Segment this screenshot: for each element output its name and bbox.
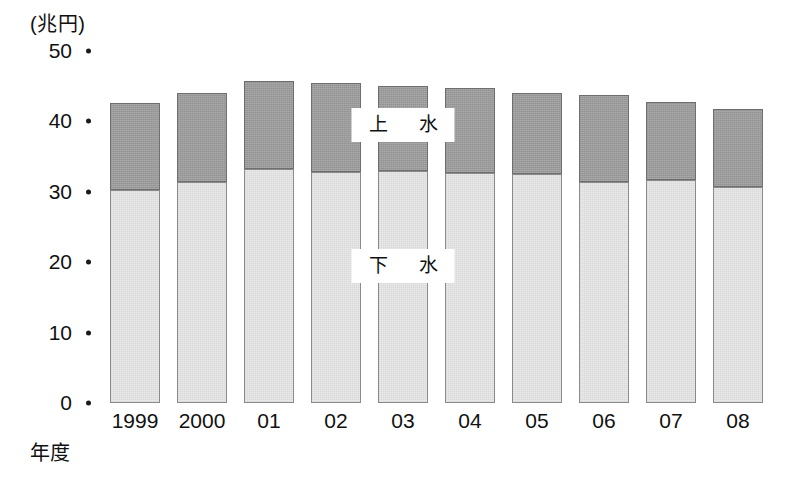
- bar-05: [512, 93, 562, 403]
- x-axis-label-01: 01: [257, 409, 280, 433]
- bar-08: [713, 109, 763, 403]
- bar-segment-sewerage: [311, 172, 361, 403]
- x-axis-caption: 年度: [30, 437, 70, 466]
- stacked-bar-chart: (兆円) 01020304050 上 水下 水 1999200001020304…: [0, 0, 786, 485]
- x-axis-label-08: 08: [726, 409, 749, 433]
- bar-segment-sewerage: [713, 187, 763, 403]
- bar-segment-upper-water: [713, 109, 763, 186]
- x-axis-label-05: 05: [525, 409, 548, 433]
- bar-segment-sewerage: [244, 169, 294, 403]
- bar-segment-sewerage: [646, 180, 696, 403]
- x-axis-label-02: 02: [324, 409, 347, 433]
- bar-06: [579, 95, 629, 403]
- bar-segment-sewerage: [378, 171, 428, 403]
- bar-segment-sewerage: [445, 173, 495, 403]
- bar-segment-sewerage: [579, 182, 629, 403]
- bar-01: [244, 81, 294, 403]
- bar-segment-upper-water: [646, 102, 696, 179]
- x-axis-label-1999: 1999: [112, 409, 159, 433]
- bar-segment-upper-water: [177, 93, 227, 182]
- bar-2000: [177, 93, 227, 403]
- bar-07: [646, 102, 696, 403]
- x-axis-label-07: 07: [659, 409, 682, 433]
- x-axis-label-04: 04: [458, 409, 481, 433]
- bar-1999: [110, 103, 160, 403]
- x-axis-label-06: 06: [592, 409, 615, 433]
- x-axis-label-2000: 2000: [179, 409, 226, 433]
- bar-segment-sewerage: [512, 174, 562, 403]
- bar-segment-upper-water: [512, 93, 562, 175]
- bar-segment-upper-water: [110, 103, 160, 190]
- bar-segment-upper-water: [244, 81, 294, 169]
- x-axis-label-03: 03: [391, 409, 414, 433]
- series-label-upper-water: 上 水: [352, 108, 455, 142]
- bar-segment-upper-water: [579, 95, 629, 182]
- series-label-sewerage: 下 水: [352, 249, 455, 283]
- bar-segment-sewerage: [177, 182, 227, 403]
- bar-segment-sewerage: [110, 190, 160, 403]
